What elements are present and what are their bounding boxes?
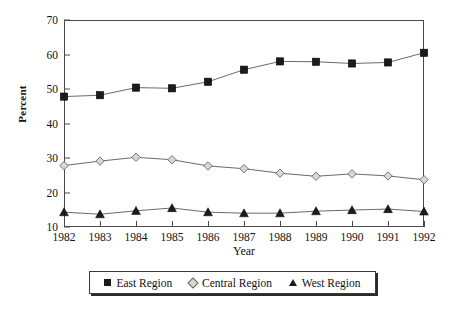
data-point-diamond [384,172,392,180]
data-point-square [312,58,319,65]
x-tick-label: 1982 [53,231,76,243]
y-tick-label: 50 [47,83,59,95]
legend-label: East Region [116,277,172,289]
legend-entry[interactable]: Central Region [189,277,272,289]
data-point-diamond [276,169,284,177]
data-point-square [348,60,355,67]
data-point-diamond [312,172,320,180]
series-east-region [60,49,427,100]
x-tick-mark [424,221,425,227]
x-tick-label: 1990 [341,231,364,243]
data-point-triangle [384,205,393,213]
series-central-region [60,153,428,184]
plot-area: 10203040506070 1982198319841985198619871… [64,20,424,227]
data-point-square [276,58,283,65]
x-tick-label: 1986 [197,231,220,243]
data-point-square [420,49,427,56]
data-point-diamond [420,176,428,184]
filled-triangle-marker [289,279,297,286]
data-point-square [132,84,139,91]
data-point-diamond [240,164,248,172]
data-point-diamond [60,161,68,169]
data-point-diamond [204,162,212,170]
x-tick-label: 1984 [125,231,148,243]
y-tick-label: 70 [47,14,59,26]
series-layer [64,20,424,227]
x-axis-title: Year [64,244,424,259]
x-tick-label: 1989 [305,231,328,243]
data-point-square [168,85,175,92]
x-tick-label: 1987 [233,231,256,243]
data-point-triangle [60,208,69,216]
data-point-square [60,93,67,100]
y-tick-label: 30 [47,152,59,164]
data-point-triangle [168,204,177,212]
legend-marker [189,279,197,287]
data-point-diamond [132,153,140,161]
data-point-square [204,78,211,85]
x-tick-label: 1992 [413,231,436,243]
legend-marker [104,279,111,286]
x-tick-label: 1988 [269,231,292,243]
legend-entry[interactable]: West Region [289,277,361,289]
data-point-square [384,59,391,66]
open-diamond-marker [187,277,198,288]
x-tick-label: 1991 [377,231,400,243]
legend-marker [289,279,297,286]
legend-label: Central Region [202,277,272,289]
chart-legend: East RegionCentral RegionWest Region [89,271,376,294]
x-tick-label: 1985 [161,231,184,243]
x-tick-label: 1983 [89,231,112,243]
legend-label: West Region [302,277,361,289]
series-line [64,53,424,97]
legend-entry[interactable]: East Region [104,277,172,289]
series-west-region [60,204,429,218]
y-axis-title: Percent [16,64,28,144]
line-chart: Percent 10203040506070 19821983198419851… [0,0,465,318]
data-point-diamond [96,157,104,165]
y-tick-label: 60 [47,49,59,61]
y-tick-label: 20 [47,187,59,199]
data-point-diamond [348,170,356,178]
data-point-square [240,66,247,73]
data-point-diamond [168,156,176,164]
filled-square-marker [104,279,111,286]
y-tick-label: 40 [47,118,59,130]
data-point-square [96,92,103,99]
